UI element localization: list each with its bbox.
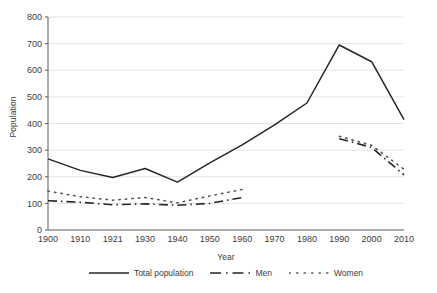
series-lines [48,45,404,205]
series-line-men [339,139,404,175]
x-tick-label: 1990 [329,234,349,244]
legend-label: Total population [134,268,194,278]
y-tick-labels: 0100200300400500600700800 [27,12,42,235]
series-line-men [48,198,242,206]
x-tick-label: 1950 [200,234,220,244]
y-tick-label: 600 [27,65,42,75]
x-tick-label: 1960 [232,234,252,244]
chart-legend: Total population Men Women [48,268,404,278]
y-axis-title: Population [8,77,18,157]
plot-area: 0100200300400500600700800 19001910192119… [0,0,437,293]
x-tick-label: 1930 [135,234,155,244]
legend-line-dashdot-icon [210,268,250,278]
y-tick-label: 500 [27,92,42,102]
series-line-total-population [48,45,404,182]
x-tick-label: 1970 [265,234,285,244]
legend-label: Men [255,268,272,278]
legend-line-dotted-icon [289,268,329,278]
legend-label: Women [334,268,363,278]
population-line-chart: 0100200300400500600700800 19001910192119… [0,0,437,293]
x-tick-labels: 1900191019211930194019501960197019801990… [38,234,414,244]
x-axis-title: Year [48,252,404,262]
series-line-women [339,136,404,169]
y-tick-label: 300 [27,145,42,155]
y-tick-label: 400 [27,119,42,129]
legend-item-women[interactable]: Women [289,268,363,278]
y-tick-label: 200 [27,172,42,182]
x-tick-label: 2010 [394,234,414,244]
x-tick-label: 1980 [297,234,317,244]
y-tick-label: 700 [27,39,42,49]
legend-item-men[interactable]: Men [210,268,272,278]
x-tick-label: 1910 [70,234,90,244]
series-line-women [48,190,242,203]
y-tick-label: 800 [27,12,42,22]
x-tick-label: 1940 [167,234,187,244]
x-tick-label: 2000 [362,234,382,244]
y-gridlines [45,17,404,230]
legend-item-total-population[interactable]: Total population [89,268,194,278]
legend-line-solid-icon [89,268,129,278]
y-tick-label: 100 [27,199,42,209]
x-tick-label: 1900 [38,234,58,244]
x-tick-label: 1921 [103,234,123,244]
